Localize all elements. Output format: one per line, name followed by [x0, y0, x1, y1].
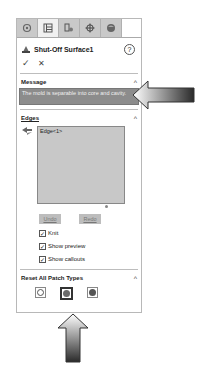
- display-manager-icon: [106, 23, 116, 33]
- manager-tabs: [17, 19, 141, 38]
- ok-button[interactable]: ✓: [22, 58, 30, 68]
- all-no-fill-button[interactable]: [87, 287, 98, 298]
- divider: [20, 109, 138, 110]
- collapse-caret-icon[interactable]: ^: [134, 115, 137, 122]
- all-tangent-button[interactable]: [60, 287, 73, 300]
- filled-circle-icon: [63, 290, 70, 297]
- dimxpert-icon: [85, 23, 95, 33]
- message-section-header[interactable]: Message ^: [17, 76, 141, 88]
- edges-list-box[interactable]: Edge<1>: [37, 126, 125, 204]
- cancel-button[interactable]: ✕: [38, 59, 45, 68]
- reset-section-header[interactable]: Reset All Patch Types ^: [17, 272, 141, 284]
- message-section-title: Message: [21, 79, 134, 85]
- feature-title: Shut-Off Surface1: [34, 46, 124, 53]
- feature-title-row: Shut-Off Surface1 ?: [17, 41, 141, 57]
- list-item[interactable]: Edge<1>: [40, 128, 122, 134]
- callout-arrow-up-icon: [57, 313, 89, 363]
- undo-redo-row: Undo Redo: [17, 208, 141, 224]
- undo-button[interactable]: Undo: [39, 214, 61, 224]
- edges-section-title: Edges: [21, 115, 134, 121]
- patch-type-buttons: [17, 284, 141, 300]
- empty-circle-icon: [37, 289, 44, 296]
- tab-display-manager[interactable]: [101, 19, 122, 37]
- divider: [20, 73, 138, 74]
- edge-selection-icon: [21, 126, 33, 136]
- all-contact-button[interactable]: [35, 287, 46, 298]
- list-resize-handle[interactable]: [105, 205, 108, 208]
- knit-checkbox[interactable]: ✓ Knit: [17, 229, 141, 237]
- property-manager-panel: Shut-Off Surface1 ? ✓ ✕ Message ^ The mo…: [16, 18, 142, 313]
- divider: [20, 269, 138, 270]
- property-manager-icon: [43, 23, 53, 33]
- tab-dimxpert-manager[interactable]: [80, 19, 101, 37]
- reset-section-title: Reset All Patch Types: [21, 275, 134, 281]
- redo-button[interactable]: Redo: [79, 214, 101, 224]
- tab-feature-manager[interactable]: [17, 19, 38, 37]
- collapse-caret-icon[interactable]: ^: [134, 275, 137, 282]
- ok-cancel-row: ✓ ✕: [17, 57, 141, 69]
- help-icon[interactable]: ?: [124, 44, 135, 55]
- tab-property-manager[interactable]: [38, 19, 59, 37]
- checkbox-label: Show callouts: [48, 256, 85, 262]
- show-callouts-checkbox[interactable]: ✓ Show callouts: [17, 255, 141, 263]
- edges-selection-row: Edge<1>: [17, 124, 141, 208]
- callout-arrow-left-icon: [132, 80, 196, 110]
- tab-bar-filler: [122, 19, 141, 37]
- edges-section-header[interactable]: Edges ^: [17, 112, 141, 124]
- message-box: The mold is separable into core and cavi…: [19, 88, 139, 105]
- checkbox-label: Show preview: [48, 243, 85, 249]
- feature-manager-icon: [22, 23, 32, 33]
- checkbox-label: Knit: [48, 230, 58, 236]
- tab-configuration-manager[interactable]: [59, 19, 80, 37]
- show-preview-checkbox[interactable]: ✓ Show preview: [17, 242, 141, 250]
- configuration-manager-icon: [64, 23, 74, 33]
- checkbox-checked-icon[interactable]: ✓: [39, 243, 46, 250]
- shut-off-surface-icon: [21, 44, 31, 54]
- dark-circle-icon: [89, 289, 96, 296]
- checkbox-checked-icon[interactable]: ✓: [39, 256, 46, 263]
- checkbox-checked-icon[interactable]: ✓: [39, 230, 46, 237]
